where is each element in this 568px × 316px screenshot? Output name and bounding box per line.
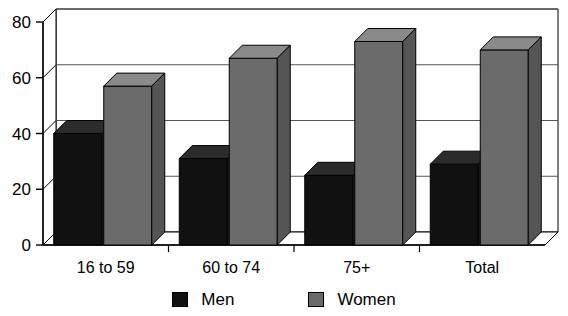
x-axis-category-label: 16 to 59 <box>77 259 135 276</box>
plot-area: 02040608016 to 5960 to 7475+Total <box>0 0 568 290</box>
bar-side-women <box>528 37 541 245</box>
x-axis-category-label: 60 to 74 <box>202 259 260 276</box>
y-axis-tick-label: 60 <box>12 69 31 88</box>
y-axis-tick-label: 0 <box>22 236 31 255</box>
bar-front-women <box>480 50 528 245</box>
bar-front-women <box>355 42 403 245</box>
x-axis-category-label: 75+ <box>343 259 370 276</box>
y-axis-tick-label: 20 <box>12 180 31 199</box>
bar-front-men <box>430 164 478 245</box>
bar-side-women <box>152 73 165 245</box>
legend-label-women: Women <box>337 291 395 308</box>
bar-front-men <box>179 159 227 245</box>
bar-front-women <box>104 86 152 245</box>
legend-label-men: Men <box>201 291 234 308</box>
bar-front-men <box>305 175 353 245</box>
legend-entry-women: Women <box>308 291 395 308</box>
legend-entry-men: Men <box>172 291 234 308</box>
bar-side-women <box>403 29 416 245</box>
bar-side-women <box>277 45 290 245</box>
gray-swatch-icon <box>308 292 324 307</box>
chart-legend: Men Women <box>0 283 568 316</box>
y-axis-tick-label: 80 <box>12 13 31 32</box>
y-axis-tick-label: 40 <box>12 125 31 144</box>
black-swatch-icon <box>172 292 188 307</box>
bar-chart: 02040608016 to 5960 to 7475+Total Men Wo… <box>0 0 568 316</box>
x-axis-category-label: Total <box>465 259 499 276</box>
bar-front-women <box>229 58 277 245</box>
bar-front-men <box>54 134 102 246</box>
